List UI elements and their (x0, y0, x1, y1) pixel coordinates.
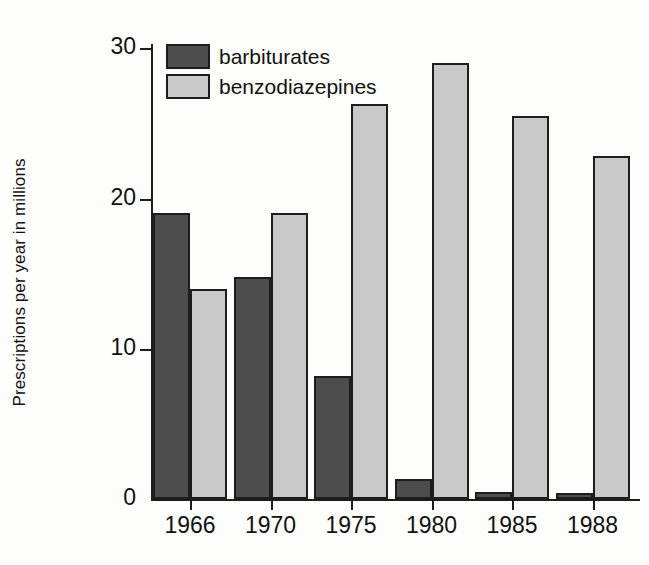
x-tick-label-1966: 1966 (150, 512, 230, 539)
y-tick-30 (140, 48, 153, 50)
legend-swatch-barbiturates (166, 44, 210, 69)
y-tick-label-20: 20 (90, 184, 136, 211)
bar-benzodiazepines-1985 (512, 116, 549, 499)
y-tick-label-10: 10 (90, 334, 136, 361)
y-tick-20 (140, 199, 153, 201)
bar-barbiturates-1985 (475, 492, 512, 499)
x-tick-1970 (271, 499, 273, 510)
y-tick-label-30: 30 (90, 33, 136, 60)
x-tick-1975 (351, 499, 353, 510)
x-axis-line (151, 499, 640, 501)
x-tick-1980 (432, 499, 434, 510)
bar-benzodiazepines-1970 (271, 213, 308, 499)
x-tick-1988 (593, 499, 595, 510)
legend-item-benzodiazepines: benzodiazepines (166, 74, 377, 99)
bar-benzodiazepines-1975 (351, 104, 388, 499)
x-tick-label-1980: 1980 (392, 512, 472, 539)
y-tick-10 (140, 349, 153, 351)
x-tick-label-1975: 1975 (311, 512, 391, 539)
x-tick-label-1970: 1970 (231, 512, 311, 539)
y-tick-label-0: 0 (90, 484, 136, 511)
bar-barbiturates-1975 (314, 376, 351, 499)
legend-swatch-benzodiazepines (166, 74, 210, 99)
legend-label-benzodiazepines: benzodiazepines (219, 75, 377, 99)
bar-barbiturates-1970 (234, 277, 271, 499)
legend-label-barbiturates: barbiturates (219, 45, 330, 69)
x-tick-1985 (512, 499, 514, 510)
bar-barbiturates-1988 (556, 493, 593, 499)
bar-chart-figure: Prescriptions per year in millions 30 20… (0, 0, 649, 565)
bar-benzodiazepines-1988 (593, 156, 630, 499)
chart-legend: barbiturates benzodiazepines (166, 44, 377, 99)
bar-benzodiazepines-1980 (432, 63, 469, 499)
x-tick-label-1985: 1985 (472, 512, 552, 539)
legend-item-barbiturates: barbiturates (166, 44, 377, 69)
y-axis-title: Prescriptions per year in millions (0, 0, 40, 565)
bar-barbiturates-1980 (395, 479, 432, 499)
x-tick-1966 (190, 499, 192, 510)
x-tick-label-1988: 1988 (553, 512, 633, 539)
bar-benzodiazepines-1966 (190, 289, 227, 499)
bar-barbiturates-1966 (153, 213, 190, 499)
